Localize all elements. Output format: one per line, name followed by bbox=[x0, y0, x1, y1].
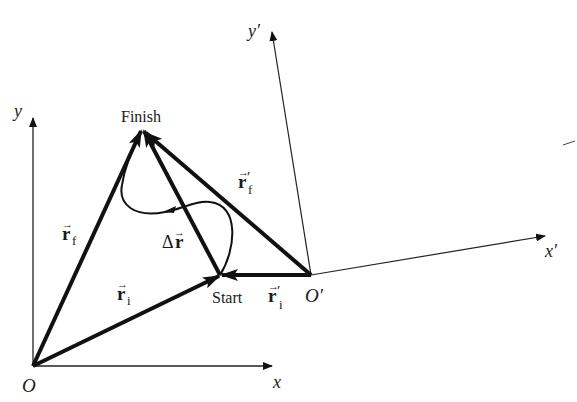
start-label: Start bbox=[212, 289, 243, 306]
finish-label: Finish bbox=[121, 108, 161, 125]
y-prime-axis bbox=[272, 32, 311, 275]
r-symbol: r bbox=[117, 283, 126, 304]
vector-r-f bbox=[33, 131, 141, 366]
label-r-f-prime: → r ′ f bbox=[238, 166, 253, 197]
r-symbol: r bbox=[62, 223, 71, 244]
reference-frames-diagram: O x y O′ x′ y′ Finish Start → r f → r i … bbox=[0, 0, 577, 402]
vector-delta-r bbox=[144, 131, 220, 275]
label-r-i: → r i bbox=[117, 278, 131, 308]
delta-symbol: Δ bbox=[162, 232, 174, 252]
label-r-i-prime: → r ′ i bbox=[268, 280, 283, 312]
y-axis-label: y bbox=[12, 101, 22, 121]
unprimed-frame: O x y bbox=[12, 101, 281, 396]
subscript: f bbox=[72, 233, 77, 248]
x-prime-axis-label: x′ bbox=[544, 241, 558, 261]
label-delta-r: Δ → r bbox=[162, 226, 185, 252]
r-symbol: r bbox=[175, 231, 184, 252]
trajectory-path bbox=[121, 135, 232, 275]
origin-o-prime-label: O′ bbox=[305, 285, 324, 306]
trajectory-arrowhead bbox=[163, 206, 176, 213]
x-axis-label: x bbox=[272, 372, 281, 392]
x-prime-axis bbox=[311, 236, 545, 275]
subscript: i bbox=[127, 293, 131, 308]
r-symbol: r bbox=[238, 171, 247, 192]
subscript: i bbox=[279, 297, 283, 312]
r-symbol: r bbox=[268, 285, 277, 306]
scan-artifact-mark bbox=[563, 141, 575, 145]
y-prime-axis-label: y′ bbox=[246, 21, 261, 41]
label-r-f: → r f bbox=[62, 218, 77, 248]
subscript: f bbox=[248, 182, 253, 197]
primed-frame: O′ x′ y′ bbox=[246, 21, 558, 306]
origin-o-label: O bbox=[22, 375, 36, 396]
